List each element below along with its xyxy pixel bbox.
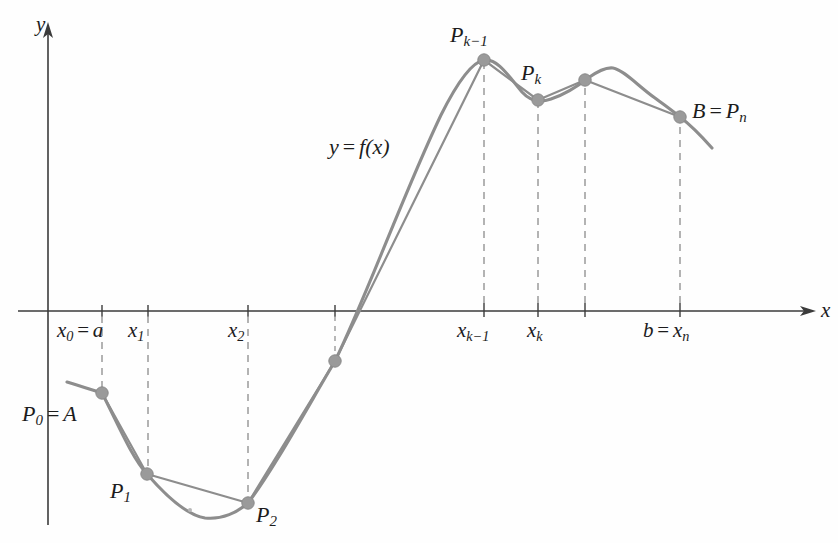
tick-label-xk-minus-1-sub: k−1 (466, 328, 489, 344)
tick-label-x2-base: x (228, 318, 237, 342)
tick-label-x2-sub: 2 (237, 328, 244, 344)
point-label-P2: P2 (256, 504, 277, 529)
point-label-P2-base: P (256, 502, 269, 527)
point-P2 (242, 497, 254, 509)
y-axis-label: y (36, 14, 45, 35)
x-axis-label: x (821, 300, 830, 321)
point-Pk (532, 94, 544, 106)
tick-label-xn-sub: n (682, 328, 689, 344)
point-label-Pk-minus-1-base: P (450, 22, 463, 47)
function-label-equals: = (339, 134, 359, 159)
tick-label-xn: b=xn (643, 320, 689, 343)
x-axis-group (18, 306, 816, 316)
point-P0 (96, 387, 108, 399)
tick-label-x2: x2 (228, 320, 244, 343)
point-label-P1: P1 (110, 480, 131, 505)
point-label-P0-sub: 0 (35, 412, 42, 428)
tick-label-x0: x0=a (57, 320, 103, 343)
tick-label-x0-a: a (93, 318, 104, 342)
function-label-arg: (x) (365, 134, 389, 159)
point-P3 (329, 355, 341, 367)
tick-label-xn-b: b (643, 318, 654, 342)
scan-speck (188, 508, 192, 512)
tick-label-xk-base: x (527, 318, 536, 342)
point-label-P0-base: P (22, 401, 35, 426)
point-P1 (141, 468, 153, 480)
figure-canvas (0, 0, 838, 543)
point-Pn (674, 111, 686, 123)
tick-label-xk-minus-1: xk−1 (457, 320, 489, 343)
function-curve (67, 60, 712, 518)
tick-label-xn-base: x (673, 318, 682, 342)
point-label-Pk: Pk (521, 62, 541, 87)
x-axis-ticks (102, 303, 680, 317)
point-label-P1-base: P (110, 478, 123, 503)
point-label-P2-sub: 2 (269, 513, 276, 529)
tick-label-x1-base: x (128, 318, 137, 342)
point-label-P0: P0=A (22, 403, 77, 428)
y-axis-group (43, 22, 53, 525)
function-label-y: y (329, 134, 339, 159)
point-label-Pn-base: P (726, 98, 739, 123)
tick-label-xk: xk (527, 320, 543, 343)
tick-label-xk-minus-1-base: x (457, 318, 466, 342)
point-label-Pk-sub: k (534, 71, 541, 87)
point-label-Pk-base: P (521, 60, 534, 85)
point-label-P1-sub: 1 (123, 489, 130, 505)
point-Pk-plus-1 (579, 74, 591, 86)
tick-label-x0-suffix: = (73, 318, 92, 342)
point-label-Pn-sub: n (739, 109, 746, 125)
point-label-Pk-minus-1: Pk−1 (450, 24, 488, 49)
tick-label-x1-sub: 1 (137, 328, 144, 344)
tick-label-x0-base: x (57, 318, 66, 342)
point-label-Pn-B: B (692, 98, 705, 123)
tick-label-x1: x1 (128, 320, 144, 343)
point-label-P0-A: A (63, 401, 76, 426)
inscribed-polygon-path (102, 60, 680, 503)
point-Pk-minus-1 (478, 54, 490, 66)
curve-points (96, 54, 686, 509)
arc-length-figure: y x y=f(x) x0=a x1 x2 xk−1 xk b=xn P0=A … (0, 0, 838, 543)
dashed-connectors (102, 62, 680, 503)
point-label-Pk-minus-1-sub: k−1 (463, 33, 487, 49)
function-label: y=f(x) (329, 136, 390, 158)
tick-label-xk-sub: k (536, 328, 542, 344)
point-label-Pn: B=Pn (692, 100, 747, 125)
